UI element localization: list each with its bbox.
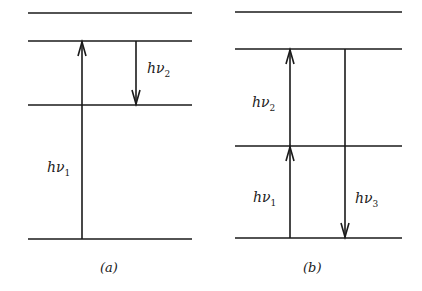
label-b-hv3: hν3: [355, 190, 379, 209]
label-a-hv2: hν2: [147, 60, 170, 79]
label-b-hv2: hν2: [252, 94, 275, 113]
caption-b: (b): [303, 260, 321, 275]
label-a-hv1: hν1: [47, 159, 70, 178]
caption-a: (a): [100, 260, 118, 275]
energy-level-diagram: hν1 hν2 (a) hν1 hν2 hν3 (b): [0, 0, 422, 291]
label-b-hv1: hν1: [253, 189, 276, 208]
panel-a: [28, 13, 192, 239]
